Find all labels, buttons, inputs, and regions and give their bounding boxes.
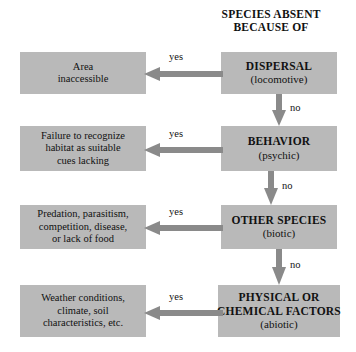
cause-physical-chemical-title-line-1: PHYSICAL OR (238, 291, 319, 305)
yes-label-dispersal: yes (169, 51, 183, 62)
cause-other-species-title: OTHER SPECIES (232, 214, 327, 228)
outcome-line: or lack of food (52, 233, 114, 246)
title-line-1: SPECIES ABSENT (222, 8, 321, 20)
no-label-behavior: no (282, 180, 293, 191)
page-title: SPECIES ABSENT BECAUSE OF (196, 8, 346, 34)
flowchart-canvas: SPECIES ABSENT BECAUSE OF DISPERSAL (loc… (0, 0, 356, 352)
no-arrow-dispersal (271, 94, 287, 126)
cause-physical-chemical-title-line-2: CHEMICAL FACTORS (217, 305, 341, 319)
cause-box-other-species[interactable]: OTHER SPECIES (biotic) (221, 205, 337, 249)
yes-label-other-species: yes (169, 206, 183, 217)
no-label-dispersal: no (290, 102, 301, 113)
outcome-line: Area (73, 61, 93, 74)
outcome-line: climate, soil (57, 305, 108, 318)
cause-box-dispersal[interactable]: DISPERSAL (locomotive) (221, 52, 337, 94)
outcome-box-failure-to-recognize[interactable]: Failure to recognize habitat as suitable… (20, 126, 146, 171)
outcome-line: inaccessible (58, 73, 109, 86)
outcome-line: characteristics, etc. (43, 317, 123, 330)
outcome-line: habitat as suitable (45, 142, 120, 155)
cause-behavior-subtitle: (psychic) (259, 149, 300, 162)
outcome-line: cues lacking (57, 155, 109, 168)
yes-label-behavior: yes (169, 128, 183, 139)
cause-physical-chemical-subtitle: (abiotic) (260, 318, 297, 331)
yes-arrow-dispersal (144, 66, 223, 82)
cause-behavior-title: BEHAVIOR (248, 135, 311, 149)
outcome-box-weather-conditions[interactable]: Weather conditions, climate, soil charac… (20, 285, 146, 337)
yes-arrow-other-species (144, 220, 223, 236)
cause-box-behavior[interactable]: BEHAVIOR (psychic) (221, 126, 337, 171)
outcome-box-predation[interactable]: Predation, parasitism, competition, dise… (20, 205, 146, 249)
outcome-line: Weather conditions, (41, 292, 125, 305)
cause-dispersal-title: DISPERSAL (246, 60, 312, 74)
cause-box-physical-chemical[interactable]: PHYSICAL OR CHEMICAL FACTORS (abiotic) (218, 285, 340, 337)
cause-other-species-subtitle: (biotic) (263, 227, 295, 240)
no-arrow-other-species (271, 249, 287, 285)
title-line-2: BECAUSE OF (233, 21, 308, 33)
no-arrow-behavior (263, 171, 279, 205)
outcome-line: Predation, parasitism, (37, 208, 128, 221)
outcome-line: Failure to recognize (41, 130, 125, 143)
yes-arrow-physical-chemical (144, 305, 223, 321)
outcome-line: competition, disease, (39, 221, 127, 234)
yes-arrow-behavior (144, 142, 223, 158)
outcome-box-area-inaccessible[interactable]: Area inaccessible (20, 52, 146, 94)
cause-dispersal-subtitle: (locomotive) (251, 73, 308, 86)
yes-label-physical-chemical: yes (169, 291, 183, 302)
no-label-other-species: no (290, 259, 301, 270)
